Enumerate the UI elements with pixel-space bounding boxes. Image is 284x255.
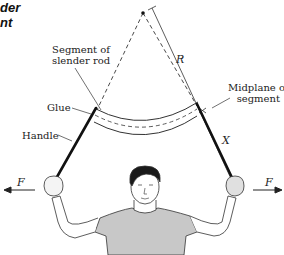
midplane-label-line-1: Midplane of	[228, 82, 284, 93]
distance-label: X	[222, 135, 230, 146]
force-left-label: F	[17, 177, 25, 188]
midplane-label-line-2: segment	[228, 93, 284, 104]
person-figure	[44, 166, 244, 255]
radius-label: R	[176, 54, 184, 65]
midplane-label: Midplane of segment	[228, 82, 284, 104]
segment-label-line-1: Segment of	[52, 44, 110, 55]
force-right-label: F	[265, 177, 273, 188]
handle-label: Handle	[22, 130, 59, 141]
center-of-curvature-point	[141, 11, 145, 15]
diagram-canvas: der nt Segment of slender rod Glue Handl…	[0, 0, 284, 255]
glue-label: Glue	[47, 102, 71, 113]
segment-label: Segment of slender rod	[52, 44, 110, 66]
title-line-1: der	[0, 0, 20, 15]
figure-title-fragment: der nt	[0, 0, 20, 30]
rod-segment	[94, 102, 198, 135]
diagram-graphics	[0, 0, 284, 255]
title-line-2: nt	[0, 15, 20, 30]
segment-label-line-2: slender rod	[52, 55, 110, 66]
